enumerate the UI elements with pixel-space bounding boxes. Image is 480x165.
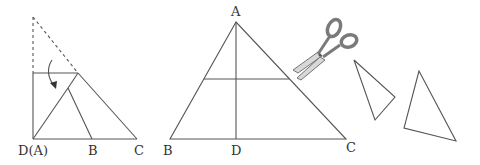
label-c-mid: C (346, 140, 356, 155)
flap-edge (68, 73, 78, 88)
scissors-icon (293, 17, 359, 80)
large-triangle-piece (404, 71, 456, 141)
label-a: A (230, 4, 241, 19)
label-d-mid: D (231, 143, 241, 158)
label-b-mid: B (163, 143, 173, 158)
triangle-abc (170, 22, 346, 139)
flap-left (33, 88, 68, 139)
label-c-left: C (134, 143, 144, 158)
label-d-a: D(A) (18, 143, 48, 158)
diagram-stage: D(A) B C A B D C (0, 0, 480, 165)
cut-pieces (354, 60, 456, 141)
label-b-left: B (88, 143, 98, 158)
left-figure: D(A) B C (18, 17, 144, 158)
flap-right (68, 88, 92, 139)
diagram-canvas: D(A) B C A B D C (0, 0, 480, 165)
dashed-hypotenuse (33, 17, 78, 73)
small-triangle-piece (354, 60, 395, 120)
